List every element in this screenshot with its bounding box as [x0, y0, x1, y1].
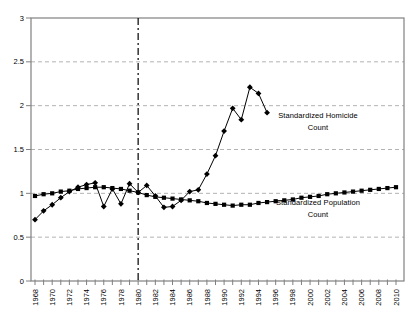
x-tick-label: 1968 [31, 289, 40, 306]
population-data-point [394, 185, 398, 189]
x-tick-label: 2002 [323, 289, 332, 306]
population-data-point [162, 196, 166, 200]
x-tick-label: 2010 [392, 289, 401, 306]
population-data-point [127, 189, 131, 193]
population-data-point [136, 190, 140, 194]
y-tick-label: 3 [20, 14, 24, 23]
homicide-data-point [213, 153, 219, 159]
population-data-point [377, 187, 381, 191]
population-data-point [153, 195, 157, 199]
homicide-data-point [221, 128, 227, 134]
population-data-point [76, 187, 80, 191]
population-data-point [67, 189, 71, 193]
annotation-homicide-line2: Count [238, 122, 398, 134]
population-data-point [119, 187, 123, 191]
population-data-point [325, 192, 329, 196]
x-tick-label: 1972 [65, 289, 74, 306]
population-data-point [334, 191, 338, 195]
x-tick-label: 1984 [168, 289, 177, 306]
population-data-point [84, 186, 88, 190]
x-tick-label: 1998 [288, 289, 297, 306]
population-data-point [360, 189, 364, 193]
x-tick-label: 1980 [134, 289, 143, 306]
homicide-data-point [101, 204, 107, 210]
population-data-point [50, 191, 54, 195]
annotation-population-line1: Standardized Population [238, 197, 398, 209]
x-tick-label: 1996 [271, 289, 280, 306]
population-data-point [110, 186, 114, 190]
homicide-data-point [195, 187, 201, 193]
y-tick-label: 1.5 [14, 145, 24, 154]
population-data-point [196, 199, 200, 203]
y-tick-label: 1 [20, 189, 24, 198]
y-tick-label: 0 [20, 277, 24, 286]
population-data-point [145, 193, 149, 197]
annotation-population: Standardized Population Count [238, 197, 398, 221]
x-tick-label: 1976 [99, 289, 108, 306]
x-tick-label: 1986 [185, 289, 194, 306]
x-tick-label: 2008 [374, 289, 383, 306]
population-data-point [342, 190, 346, 194]
population-data-point [231, 204, 235, 208]
population-data-point [385, 186, 389, 190]
chart: 00.511.522.53196819701972197419761978198… [0, 0, 417, 312]
x-tick-label: 2004 [340, 289, 349, 306]
population-data-point [222, 203, 226, 207]
x-tick-label: 1982 [151, 289, 160, 306]
population-data-point [205, 201, 209, 205]
population-data-point [179, 197, 183, 201]
x-tick-label: 1990 [220, 289, 229, 306]
population-data-point [33, 194, 37, 198]
population-data-point [41, 192, 45, 196]
y-tick-label: 2 [20, 101, 24, 110]
y-tick-label: 0.5 [14, 233, 24, 242]
annotation-population-line2: Count [238, 209, 398, 221]
population-data-point [351, 189, 355, 193]
annotation-homicide-line1: Standardized Homicide [238, 110, 398, 122]
population-data-point [368, 188, 372, 192]
population-data-point [59, 189, 63, 193]
population-data-point [93, 185, 97, 189]
x-tick-label: 1974 [82, 289, 91, 306]
population-data-point [102, 185, 106, 189]
homicide-data-point [92, 180, 98, 186]
population-data-point [213, 202, 217, 206]
x-tick-label: 1992 [237, 289, 246, 306]
x-tick-label: 2006 [357, 289, 366, 306]
chart-plot-area: 00.511.522.53196819701972197419761978198… [0, 0, 417, 312]
x-tick-label: 1988 [203, 289, 212, 306]
x-tick-label: 1994 [254, 289, 263, 306]
x-tick-label: 1970 [48, 289, 57, 306]
homicide-data-point [204, 171, 210, 177]
x-tick-label: 2000 [306, 289, 315, 306]
x-tick-label: 1978 [117, 289, 126, 306]
population-data-point [188, 198, 192, 202]
population-data-point [170, 196, 174, 200]
homicide-data-point [118, 201, 124, 207]
annotation-homicide: Standardized Homicide Count [238, 110, 398, 134]
y-tick-label: 2.5 [14, 57, 24, 66]
